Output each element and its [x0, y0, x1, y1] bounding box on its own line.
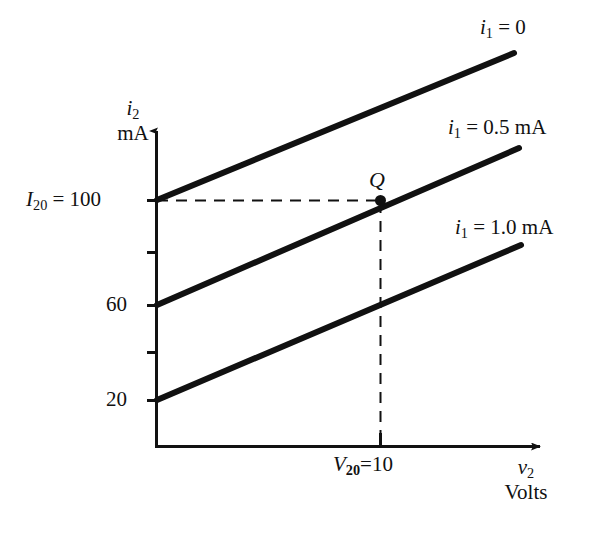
y-axis-label: i2 mA	[105, 97, 161, 144]
curve-label-i1-0p5: i1 = 0.5 mA	[448, 116, 546, 141]
curve-label-i1-0-sub: 1	[486, 25, 493, 41]
curve-label-i1-1p0: i1 = 1.0 mA	[455, 216, 553, 241]
i20-value: = 100	[47, 187, 101, 211]
x-axis-label: v2 Volts	[490, 456, 562, 503]
curve-label-i1-1p0-eq: = 1.0 mA	[468, 215, 553, 239]
curve-label-i1-0p5-eq: = 0.5 mA	[461, 115, 546, 139]
v20-value: =10	[360, 452, 393, 476]
x-axis-unit: Volts	[490, 481, 562, 503]
q-point-marker	[375, 195, 386, 206]
i20-sub: 20	[33, 197, 47, 213]
x-tick-label-10: V20=10	[333, 453, 393, 478]
chart-figure: i1 = 0 i1 = 0.5 mA i1 = 1.0 mA i2 mA I20…	[0, 0, 590, 541]
y-tick-label-60: 60	[106, 293, 127, 315]
v20-symbol: V	[333, 452, 346, 476]
x-axis-symbol-row: v2	[490, 456, 562, 481]
i20-symbol: I	[26, 187, 33, 211]
y-axis-symbol-sub: 2	[132, 106, 139, 122]
y-tick-label-20: 20	[106, 388, 127, 410]
q-point-label: Q	[369, 168, 385, 191]
y-tick-label-100: I20 = 100	[26, 188, 101, 213]
x-axis-symbol-sub: 2	[527, 465, 534, 481]
x-axis-symbol: v	[518, 455, 527, 479]
curve-label-i1-0: i1 = 0	[480, 16, 526, 41]
curve-i1-1p0	[157, 245, 521, 400]
y-axis-unit: mA	[105, 122, 161, 144]
curve-label-i1-0p5-sub: 1	[454, 125, 461, 141]
v20-sub: 20	[346, 462, 360, 478]
y-axis-symbol-row: i2	[105, 97, 161, 122]
curve-label-i1-0-eq: = 0	[493, 15, 526, 39]
curve-label-i1-1p0-sub: 1	[461, 225, 468, 241]
